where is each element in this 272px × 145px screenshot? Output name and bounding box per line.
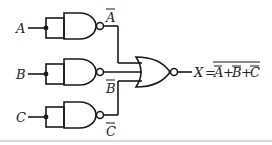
equation-term-b: B — [231, 65, 242, 80]
equation-term-a: A — [213, 65, 223, 80]
equation-term-c: C — [250, 65, 260, 80]
junction-dot-c — [44, 115, 49, 120]
nand-gate-c — [28, 81, 142, 128]
output-equation: X = A + B + C — [193, 62, 260, 80]
input-label-a: A — [15, 21, 25, 36]
input-label-c: C — [16, 110, 26, 125]
output-label-a-bar: A — [105, 9, 115, 25]
svg-text:C: C — [106, 124, 116, 139]
output-label-b-bar: B — [105, 80, 116, 96]
output-label-c-bar: C — [106, 123, 116, 139]
bottom-divider — [0, 140, 272, 142]
junction-dot-a — [44, 26, 49, 31]
junction-dot-b — [44, 72, 49, 77]
logic-circuit-diagram: A B C A B C X = A + B + C — [0, 0, 272, 145]
svg-text:A: A — [105, 10, 115, 25]
input-label-b: B — [15, 67, 26, 82]
equation-lhs: X — [193, 65, 204, 80]
nand-gate-a — [28, 13, 142, 63]
nor-gate — [136, 57, 192, 87]
svg-text:B: B — [105, 81, 116, 96]
